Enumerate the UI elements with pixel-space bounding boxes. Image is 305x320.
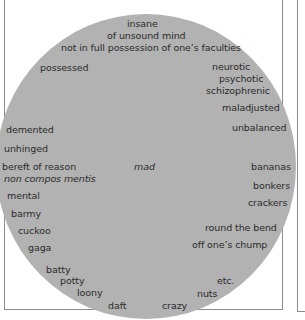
term-mad-center: mad	[134, 161, 155, 172]
adjacent-frame	[297, 0, 305, 312]
term-bonkers: bonkers	[253, 180, 290, 191]
term-gaga: gaga	[28, 242, 51, 253]
term-neurotic: neurotic	[212, 61, 250, 72]
term-daft: daft	[108, 300, 126, 311]
term-batty: batty	[46, 264, 70, 275]
term-barmy: barmy	[11, 208, 41, 219]
term-nuts: nuts	[197, 288, 217, 299]
term-maladjusted: maladjusted	[222, 102, 280, 113]
term-non-compos-mentis: non compos mentis	[4, 173, 96, 184]
term-etc: etc.	[217, 275, 234, 286]
term-not-in-full-possession: not in full possession of one’s facultie…	[61, 42, 241, 53]
term-cuckoo: cuckoo	[18, 225, 51, 236]
term-possessed: possessed	[40, 62, 88, 73]
term-bananas: bananas	[251, 161, 291, 172]
term-psychotic: psychotic	[219, 73, 263, 84]
term-unhinged: unhinged	[4, 143, 48, 154]
term-potty: potty	[60, 275, 84, 286]
term-crazy: crazy	[162, 300, 187, 311]
term-schizophrenic: schizophrenic	[206, 85, 270, 96]
term-bereft-of-reason: bereft of reason	[2, 161, 76, 172]
term-demented: demented	[6, 124, 54, 135]
term-off-ones-chump: off one’s chump	[192, 239, 267, 250]
term-loony: loony	[77, 287, 102, 298]
term-unbalanced: unbalanced	[232, 122, 286, 133]
term-crackers: crackers	[248, 197, 287, 208]
term-of-unsound-mind: of unsound mind	[107, 30, 186, 41]
term-round-the-bend: round the bend	[205, 222, 277, 233]
term-insane: insane	[127, 18, 158, 29]
term-mental: mental	[7, 190, 40, 201]
